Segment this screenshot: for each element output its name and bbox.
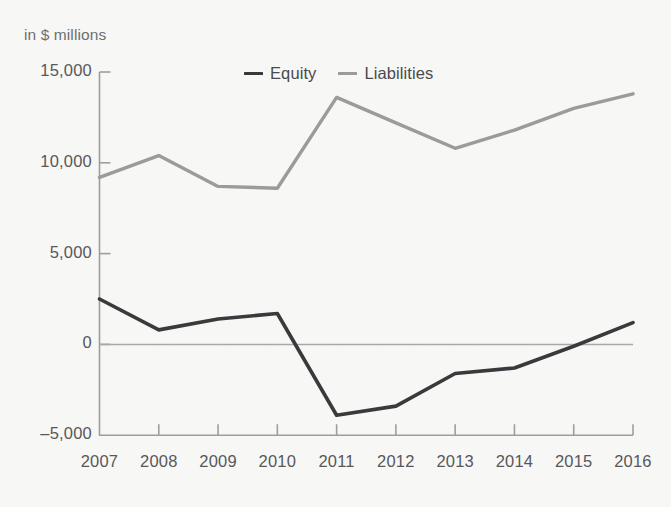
- x-axis-tick-label: 2011: [307, 452, 367, 471]
- x-axis-tick-label: 2008: [129, 452, 189, 471]
- x-axis-tick-label: 2010: [247, 452, 307, 471]
- series-line-equity[interactable]: [100, 299, 634, 415]
- x-axis-tick-label: 2013: [425, 452, 485, 471]
- x-axis-tick-label: 2016: [603, 452, 663, 471]
- y-axis-tick-label: 10,000: [6, 152, 92, 171]
- x-axis-tick-label: 2014: [484, 452, 544, 471]
- y-axis-label-group: 15,00010,0005,0000–5,000: [0, 0, 92, 507]
- x-axis-tick-label: 2015: [544, 452, 604, 471]
- x-axis-ticks: [159, 424, 633, 435]
- y-axis-tick-label: 0: [6, 333, 92, 352]
- x-axis-tick-label: 2007: [70, 452, 130, 471]
- y-axis-tick-label: 15,000: [6, 61, 92, 80]
- axes-group: [99, 72, 633, 436]
- x-axis-tick-label: 2012: [366, 452, 426, 471]
- series-line-liabilities[interactable]: [100, 94, 634, 188]
- plot-area: [0, 0, 671, 507]
- chart-container: · in $ millions Equity Liabilities 15,00…: [0, 0, 671, 507]
- data-series-group: [100, 94, 634, 415]
- y-axis-tick-label: 5,000: [6, 243, 92, 262]
- x-axis-tick-label: 2009: [188, 452, 248, 471]
- y-axis-tick-label: –5,000: [6, 424, 92, 443]
- x-axis-label-group: 2007200820092010201120122013201420152016: [0, 452, 671, 482]
